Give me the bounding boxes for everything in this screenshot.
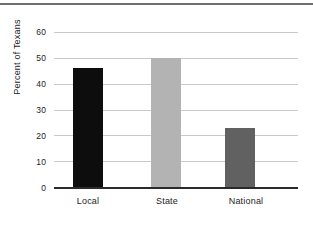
bar-state[interactable] (151, 58, 181, 187)
y-tick-label-10: 10 (16, 158, 46, 167)
top-divider-rule (0, 3, 313, 5)
y-tick-label-40: 40 (16, 80, 46, 89)
x-tick-label-local: Local (58, 196, 118, 206)
plot-area (54, 32, 298, 187)
gridline-60 (54, 32, 298, 33)
x-tick-label-national: National (211, 196, 281, 206)
y-tick-label-0: 0 (16, 184, 46, 193)
x-axis-baseline (54, 187, 298, 189)
y-tick-label-60: 60 (16, 28, 46, 37)
bar-national[interactable] (225, 128, 255, 187)
y-tick-label-20: 20 (16, 132, 46, 141)
chart-figure: Percent of Texans 0 10 20 30 40 50 60 Lo… (0, 0, 313, 226)
y-tick-label-30: 30 (16, 106, 46, 115)
bar-local[interactable] (73, 68, 103, 187)
y-tick-label-50: 50 (16, 54, 46, 63)
x-tick-label-state: State (137, 196, 197, 206)
